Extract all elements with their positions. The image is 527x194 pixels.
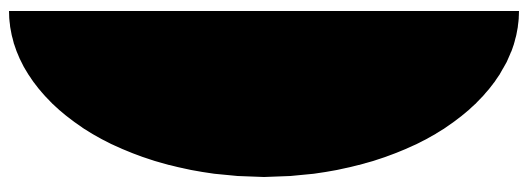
image-canvas: Solid black lower-half-ellipse silhouett… (0, 0, 527, 194)
half-ellipse-graphic (0, 0, 527, 194)
